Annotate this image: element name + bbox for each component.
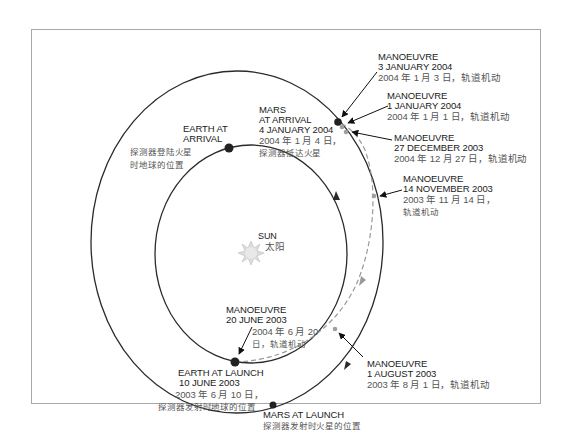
mars-at-launch-label: MARS AT LAUNCH 探测器发射时火星的位置 [263,410,361,433]
sun-label: SUN 太阳 [258,231,285,253]
manoeuvre-1aug2003-label: MANOEUVRE 1 AUGUST 2003 2003 年 8 月 1 日，轨… [367,359,490,391]
mars-at-launch-dot [270,402,277,409]
manoeuvre-20jun2003-label: MANOEUVRE 20 JUNE 2003 [226,305,287,325]
manoeuvre-dot-14nov2003 [372,194,377,199]
manoeuvre-dot-1aug2003 [333,327,338,332]
leader-arrow-14nov2003 [380,190,402,196]
mars-orbit-direction-arrow-icon [344,361,351,370]
earth-orbit-direction-arrow-icon [333,191,340,200]
earth-at-launch-dot [231,358,240,367]
leader-arrow-27dec2003 [352,132,392,140]
manoeuvre-27dec2003-label: MANOEUVRE 27 DECEMBER 2003 2004 年 12 月 2… [394,133,527,165]
manoeuvre-20jun2003-zh-label: 2004 年 6 月 20 日，轨道机动 [252,326,318,351]
earth-at-launch-zh-label: 2003 年 6 月 10 日， 探测器发射时地球的位置 [158,389,264,414]
leader-arrow-3jan2004 [342,72,377,117]
earth-at-arrival-zh-label: 探测器登陆火星 时地球的位置 [130,146,192,172]
earth-at-launch-label: EARTH AT LAUNCH 10 JUNE 2003 [178,368,264,388]
leader-arrow-1jan2004 [348,106,388,123]
mars-at-arrival-label: MARS AT ARRIVAL 4 JANUARY 2004 2004 年 1 … [259,105,342,160]
manoeuvre-14nov2003-label: MANOEUVRE 14 NOVEMBER 2003 2003 年 11 月 1… [403,174,496,219]
manoeuvre-3jan2004-label: MANOEUVRE 3 JANUARY 2004 2004 年 1 月 3 日，… [378,52,501,84]
leader-arrow-20jun2003 [239,327,252,354]
trajectory-arrow-icon [359,276,366,286]
earth-at-arrival-label: EARTH AT ARRIVAL [183,124,228,144]
manoeuvre-dot-27dec2003 [344,130,349,135]
earth-at-arrival-dot [225,144,234,153]
manoeuvre-1jan2004-label: MANOEUVRE 1 JANUARY 2004 2004 年 1 月 1 日，… [387,91,510,123]
